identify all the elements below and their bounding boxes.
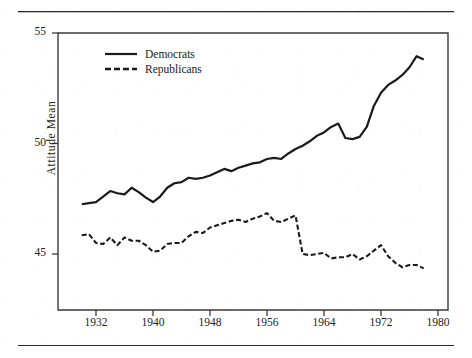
series-line-republicans [82, 213, 424, 268]
x-tick-label: 1940 [133, 316, 173, 328]
legend-label-democrats: Democrats [145, 48, 195, 60]
x-tick-label: 1932 [76, 316, 116, 328]
y-tick-label: 45 [20, 246, 46, 258]
x-tick-label: 1964 [304, 316, 344, 328]
legend-item-democrats: Democrats [104, 46, 202, 61]
legend-line-solid-icon [104, 49, 138, 59]
x-tick-label: 1972 [361, 316, 401, 328]
x-tick-label: 1956 [247, 316, 287, 328]
y-axis-title: Attitude Mean [45, 78, 57, 198]
legend-label-republicans: Republicans [145, 63, 202, 75]
legend-item-republicans: Republicans [104, 61, 202, 76]
figure-container: Attitude Mean 555045 1932194019481956196… [0, 0, 472, 358]
x-tick-label: 1948 [190, 316, 230, 328]
legend-line-dashed-icon [104, 64, 138, 74]
chart-legend: Democrats Republicans [104, 46, 202, 76]
y-tick-label: 50 [20, 136, 46, 148]
x-tick-label: 1980 [418, 316, 458, 328]
y-tick-label: 55 [20, 25, 46, 37]
line-chart-plot [0, 0, 472, 358]
data-series-group [82, 56, 424, 268]
series-line-democrats [82, 56, 424, 204]
